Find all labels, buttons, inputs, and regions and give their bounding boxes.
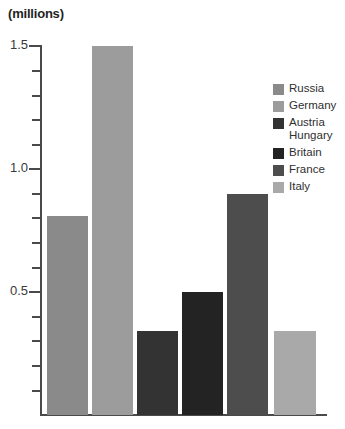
legend-swatch-italy <box>273 182 284 193</box>
y-axis-minor-tick-0-1 <box>32 390 41 392</box>
y-axis-minor-tick-0-9 <box>32 193 41 195</box>
legend-item-france: France <box>273 163 345 176</box>
y-axis-minor-tick-1-1 <box>32 144 41 146</box>
y-axis-label-0-5: 0.5 <box>0 283 28 298</box>
legend-label-russia: Russia <box>289 82 324 95</box>
bar-austria-hungary <box>137 331 178 415</box>
legend-item-austria-hungary: Austria Hungary <box>273 116 345 142</box>
legend-item-britain: Britain <box>273 146 345 159</box>
y-axis-minor-tick-0-2 <box>32 365 41 367</box>
y-axis-tick-1-0 <box>29 168 41 170</box>
bar-italy <box>274 331 316 415</box>
y-axis-minor-tick-0-8 <box>32 217 41 219</box>
y-axis-minor-tick-0-7 <box>32 242 41 244</box>
legend-label-italy: Italy <box>289 180 310 193</box>
chart-legend: Russia Germany Austria Hungary Britain F… <box>273 82 345 197</box>
bar-russia <box>47 216 88 415</box>
legend-item-italy: Italy <box>273 180 345 193</box>
y-axis-minor-tick-1-4 <box>32 70 41 72</box>
y-axis-tick-1-5 <box>29 45 41 47</box>
legend-swatch-russia <box>273 84 284 95</box>
y-axis-line <box>40 45 42 416</box>
y-axis-minor-tick-0-4 <box>32 316 41 318</box>
legend-label-germany: Germany <box>289 99 336 112</box>
y-axis-minor-tick-1-2 <box>32 119 41 121</box>
legend-swatch-austria-hungary <box>273 118 284 129</box>
plot-area: 1.5 1.0 0.5 <box>0 0 345 429</box>
bar-germany <box>92 46 133 415</box>
y-axis-tick-0-5 <box>29 291 41 293</box>
y-axis-minor-tick-0-3 <box>32 340 41 342</box>
bar-france <box>227 194 268 415</box>
legend-swatch-france <box>273 165 284 176</box>
legend-swatch-germany <box>273 101 284 112</box>
y-axis-label-1-5: 1.5 <box>0 37 28 52</box>
y-axis-minor-tick-1-3 <box>32 95 41 97</box>
legend-label-britain: Britain <box>289 146 322 159</box>
y-axis-label-1-0: 1.0 <box>0 160 28 175</box>
legend-label-france: France <box>289 163 325 176</box>
bar-britain <box>182 292 223 415</box>
legend-item-russia: Russia <box>273 82 345 95</box>
legend-label-austria-hungary: Austria Hungary <box>289 116 332 142</box>
legend-swatch-britain <box>273 148 284 159</box>
y-axis-minor-tick-0-6 <box>32 267 41 269</box>
legend-item-germany: Germany <box>273 99 345 112</box>
